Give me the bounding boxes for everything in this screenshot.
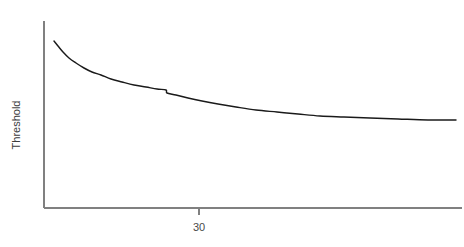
chart-background: [0, 0, 464, 247]
x-axis-tick-label-30: 30: [193, 221, 205, 233]
chart-plot-area: 30 Threshold: [0, 0, 464, 247]
y-axis-title: Threshold: [10, 101, 22, 150]
chart-container: 30 Threshold: [0, 0, 464, 247]
